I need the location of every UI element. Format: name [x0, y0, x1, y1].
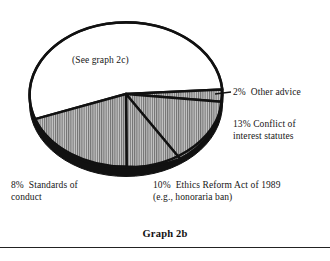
conflict-label-line-1: 13% Conflict of: [233, 119, 296, 129]
slice-label-see-graph-2c: (See graph 2c): [72, 55, 129, 67]
slice-label-standards-of-conduct: 8% Standards ofconduct: [11, 180, 78, 203]
standards-label-line-2: conduct: [11, 192, 42, 202]
graph-figure: (See graph 2c) 2% Other advice 13% Confl…: [0, 0, 330, 261]
graph-caption: Graph 2b: [0, 228, 330, 239]
ethics-label-line-2: (e.g., honoraria ban): [153, 192, 232, 202]
conflict-label-line-2: interest statutes: [233, 131, 294, 141]
slice-label-ethics-reform-act-1989: 10% Ethics Reform Act of 1989(e.g., hono…: [153, 180, 281, 203]
standards-label-line-1: 8% Standards of: [11, 180, 78, 190]
slice-label-other-advice: 2% Other advice: [233, 87, 301, 99]
ethics-label-line-1: 10% Ethics Reform Act of 1989: [153, 180, 281, 190]
slice-label-conflict-of-interest-statutes: 13% Conflict ofinterest statutes: [233, 119, 296, 142]
bottom-divider: [0, 247, 330, 248]
